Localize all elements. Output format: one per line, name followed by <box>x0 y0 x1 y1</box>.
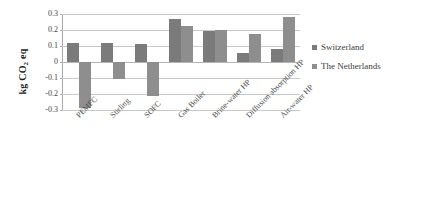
y-axis-ticks: 0.30.20.10-0.1-0.2-0.3 <box>36 14 60 110</box>
bar <box>203 31 215 62</box>
y-axis-title-text: kg CO2 eq <box>18 48 29 94</box>
legend-swatch-icon <box>312 64 317 69</box>
bar <box>67 43 79 62</box>
legend-item[interactable]: Switzerland <box>312 42 424 52</box>
bar <box>271 49 283 62</box>
x-axis-labels: PEMFCStirlingSOFCGas BoilerBrine-water H… <box>0 110 425 203</box>
legend-swatch-icon <box>312 45 317 50</box>
y-axis-title-prefix: kg CO <box>18 65 29 94</box>
bar <box>113 62 125 79</box>
y-tick-label: -0.2 <box>34 90 58 98</box>
bar <box>181 26 193 62</box>
bar <box>283 17 295 62</box>
legend-item[interactable]: The Netherlands <box>312 61 424 71</box>
bar <box>169 19 181 62</box>
bar <box>237 53 249 62</box>
bar <box>249 34 261 62</box>
y-axis-title-suffix: eq <box>18 48 29 61</box>
bar-chart-figure: kg CO2 eq 0.30.20.10-0.1-0.2-0.3 PEMFCSt… <box>0 0 425 203</box>
y-axis-title-subscript: 2 <box>23 61 31 65</box>
y-tick-label: 0 <box>34 58 58 66</box>
y-tick-label: 0.2 <box>34 26 58 34</box>
bar <box>135 44 147 62</box>
y-tick-label: 0.1 <box>34 42 58 50</box>
legend-label: The Netherlands <box>321 61 381 71</box>
legend-label: Switzerland <box>321 42 364 52</box>
y-tick-label: -0.1 <box>34 74 58 82</box>
bar-group <box>130 14 164 110</box>
bar <box>101 43 113 62</box>
bar <box>147 62 159 96</box>
bar <box>215 30 227 62</box>
y-axis-title: kg CO2 eq <box>14 26 32 116</box>
y-tick-label: 0.3 <box>34 10 58 18</box>
chart-legend: SwitzerlandThe Netherlands <box>312 42 424 80</box>
